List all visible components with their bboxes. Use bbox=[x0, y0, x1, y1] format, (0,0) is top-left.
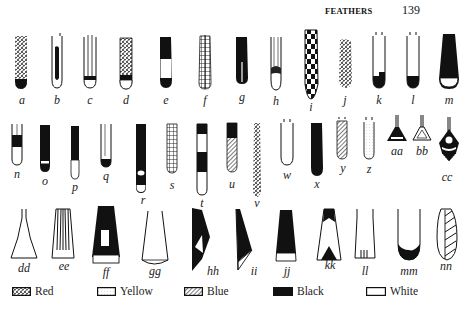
feather-bb-figure bbox=[411, 115, 433, 145]
feather-o-figure bbox=[38, 124, 52, 174]
legend-label-red: Red bbox=[35, 285, 54, 297]
feather-t-figure bbox=[195, 123, 209, 197]
feather-m-figure bbox=[437, 33, 461, 91]
feather-e-figure bbox=[158, 36, 174, 90]
feather-g-figure bbox=[234, 36, 250, 86]
feather-cc-figure bbox=[436, 117, 462, 165]
label-mm: mm bbox=[397, 264, 421, 279]
label-r: r bbox=[131, 193, 155, 208]
label-aa: aa bbox=[385, 144, 409, 159]
feather-n-figure bbox=[10, 123, 24, 167]
legend-item-black: Black bbox=[273, 285, 324, 297]
label-m: m bbox=[437, 93, 461, 108]
label-n: n bbox=[5, 167, 29, 182]
label-y: y bbox=[331, 161, 355, 176]
feather-j-figure bbox=[337, 38, 355, 90]
label-i: i bbox=[299, 100, 323, 115]
label-dd: dd bbox=[12, 261, 36, 276]
label-l: l bbox=[401, 93, 425, 108]
feather-dd-figure bbox=[9, 208, 39, 262]
label-k: k bbox=[367, 93, 391, 108]
label-z: z bbox=[357, 162, 381, 177]
feather-p-figure bbox=[69, 125, 81, 181]
label-h: h bbox=[264, 94, 288, 109]
label-kk: kk bbox=[318, 258, 342, 273]
feather-h-figure bbox=[268, 36, 284, 92]
legend-item-yellow: Yellow bbox=[97, 285, 153, 297]
label-u: u bbox=[220, 177, 244, 192]
label-ee: ee bbox=[52, 259, 76, 274]
legend-label-black: Black bbox=[297, 285, 324, 297]
legend-label-white: White bbox=[390, 285, 418, 297]
feather-ff-figure bbox=[90, 203, 122, 265]
label-ff: ff bbox=[94, 265, 118, 280]
label-nn: nn bbox=[434, 259, 458, 274]
feather-gg-figure bbox=[140, 210, 170, 268]
feather-s-figure bbox=[165, 123, 179, 175]
feather-x-figure bbox=[309, 122, 325, 178]
feather-i-figure bbox=[303, 29, 321, 101]
legend-item-blue: Blue bbox=[184, 285, 229, 297]
feather-a-figure bbox=[13, 35, 29, 91]
feather-f-figure bbox=[197, 35, 213, 91]
running-head: FEATHERS bbox=[325, 6, 373, 16]
white-swatch-icon bbox=[366, 287, 386, 296]
feather-mm-figure bbox=[394, 208, 424, 266]
feather-z-figure bbox=[362, 117, 376, 161]
label-cc: cc bbox=[435, 170, 459, 185]
label-d: d bbox=[114, 93, 138, 108]
label-gg: gg bbox=[143, 264, 167, 279]
feather-nn-figure bbox=[435, 208, 459, 264]
yellow-swatch-icon bbox=[97, 287, 116, 296]
label-g: g bbox=[230, 90, 254, 105]
feather-u-figure bbox=[225, 122, 239, 174]
label-hh: hh bbox=[201, 264, 225, 279]
label-c: c bbox=[78, 93, 102, 108]
label-ii: ii bbox=[242, 264, 266, 279]
feather-k-figure bbox=[371, 32, 387, 90]
feather-jj-figure bbox=[274, 209, 300, 263]
feather-b-figure bbox=[49, 32, 65, 92]
feather-kk-figure bbox=[315, 208, 343, 264]
feather-y-figure bbox=[335, 117, 349, 161]
red-swatch-icon bbox=[12, 287, 31, 296]
feather-l-figure bbox=[405, 32, 421, 90]
legend-item-white: White bbox=[366, 285, 418, 297]
label-a: a bbox=[10, 93, 34, 108]
legend-label-blue: Blue bbox=[207, 285, 229, 297]
label-x: x bbox=[305, 177, 329, 192]
feather-c-figure bbox=[82, 34, 98, 90]
label-p: p bbox=[63, 180, 87, 195]
label-j: j bbox=[333, 93, 357, 108]
feather-ee-figure bbox=[50, 208, 76, 262]
feather-r-figure bbox=[134, 123, 148, 195]
label-ll: ll bbox=[353, 264, 377, 279]
feather-ii-figure bbox=[234, 208, 256, 272]
feather-ll-figure bbox=[353, 208, 377, 266]
feather-v-figure bbox=[251, 122, 263, 198]
feather-w-figure bbox=[279, 119, 295, 167]
label-jj: jj bbox=[275, 264, 299, 279]
label-w: w bbox=[275, 168, 299, 183]
legend-label-yellow: Yellow bbox=[120, 285, 153, 297]
label-b: b bbox=[45, 93, 69, 108]
label-bb: bb bbox=[410, 144, 434, 159]
label-e: e bbox=[154, 93, 178, 108]
blue-swatch-icon bbox=[184, 287, 203, 296]
label-q: q bbox=[94, 169, 118, 184]
black-swatch-icon bbox=[273, 287, 293, 296]
label-f: f bbox=[193, 93, 217, 108]
page-number: 139 bbox=[402, 3, 420, 18]
feather-q-figure bbox=[99, 123, 113, 169]
color-legend: Red Yellow Blue Black White bbox=[0, 285, 465, 303]
label-o: o bbox=[33, 174, 57, 189]
label-s: s bbox=[160, 178, 184, 193]
legend-item-red: Red bbox=[12, 285, 54, 297]
feather-d-figure bbox=[118, 37, 134, 91]
feather-aa-figure bbox=[385, 115, 409, 145]
